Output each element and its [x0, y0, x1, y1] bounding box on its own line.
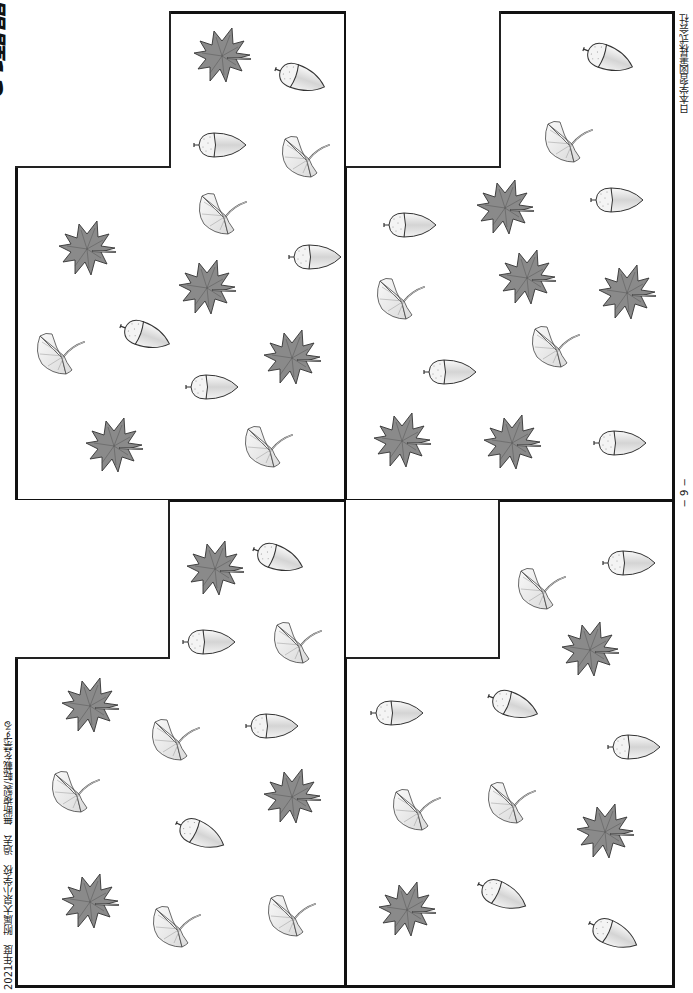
- ginkgo-icon: [148, 900, 204, 950]
- acorn-icon: [184, 371, 240, 403]
- answer-box-top-right[interactable]: [346, 11, 501, 168]
- acorn-icon: [287, 241, 343, 273]
- acorn-icon: [382, 209, 438, 241]
- ginkgo-icon: [527, 320, 583, 370]
- maple-icon: [81, 414, 143, 476]
- acorn-icon: [589, 184, 645, 216]
- ginkgo-icon: [540, 115, 596, 165]
- acorn-icon: [606, 731, 662, 763]
- ginkgo-icon: [513, 562, 569, 612]
- maple-icon: [572, 800, 634, 862]
- maple-icon: [594, 261, 656, 323]
- ginkgo-icon: [47, 765, 103, 815]
- ginkgo-icon: [483, 776, 539, 826]
- acorn-icon: [244, 710, 300, 742]
- footer-notice: 2021年度 附属大泉小学校 過去 無断複製/転載を禁ずる: [1, 660, 16, 990]
- maple-icon: [479, 411, 541, 473]
- answer-box-bottom-right[interactable]: [346, 500, 500, 659]
- page-title: 問題12: [0, 0, 14, 98]
- ginkgo-icon: [388, 783, 444, 833]
- maple-icon: [472, 176, 534, 238]
- acorn-icon: [592, 427, 648, 459]
- page-title-container: 問題12: [0, 0, 14, 186]
- maple-icon: [54, 217, 116, 279]
- ginkgo-icon: [32, 327, 88, 377]
- ginkgo-icon: [194, 187, 250, 237]
- acorn-icon: [181, 626, 237, 658]
- ginkgo-icon: [240, 420, 296, 470]
- maple-icon: [557, 618, 619, 680]
- maple-icon: [259, 326, 321, 388]
- maple-icon: [369, 409, 431, 471]
- acorn-icon: [422, 356, 478, 388]
- maple-icon: [182, 537, 244, 599]
- ginkgo-icon: [147, 713, 203, 763]
- answer-box-bottom-left[interactable]: [15, 500, 170, 659]
- ginkgo-icon: [372, 272, 428, 322]
- maple-icon: [259, 765, 321, 827]
- answer-box-top-left[interactable]: [15, 11, 171, 168]
- acorn-icon: [192, 129, 248, 161]
- maple-icon: [189, 24, 251, 86]
- acorn-icon: [369, 697, 425, 729]
- publisher-label: 日本学習図書株式会社: [679, 14, 691, 114]
- maple-icon: [174, 256, 236, 318]
- ginkgo-icon: [269, 616, 325, 666]
- ginkgo-icon: [263, 889, 319, 939]
- maple-icon: [57, 674, 119, 736]
- ginkgo-icon: [277, 130, 333, 180]
- page-number: − 9 −: [679, 478, 690, 507]
- maple-icon: [494, 246, 556, 308]
- acorn-icon: [601, 547, 657, 579]
- maple-icon: [57, 870, 119, 932]
- maple-icon: [374, 878, 436, 940]
